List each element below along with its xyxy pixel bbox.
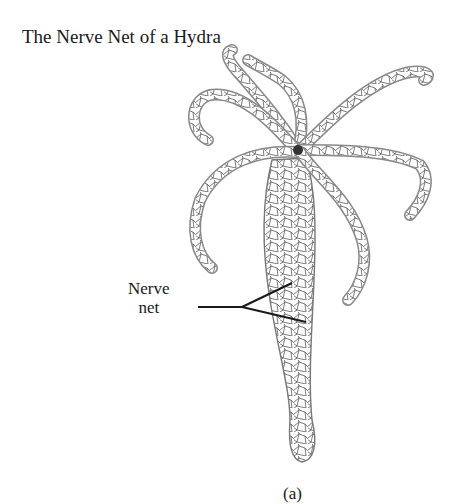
hydra-body [264, 158, 315, 462]
figure-caption: (a) [283, 484, 302, 504]
nerve-net-label-line2: net [128, 298, 170, 317]
figure-title: The Nerve Net of a Hydra [22, 26, 221, 48]
nerve-net-label-line1: Nerve [128, 279, 170, 298]
nerve-net-label: Nerve net [128, 279, 170, 317]
hypostome-marker [293, 145, 303, 155]
